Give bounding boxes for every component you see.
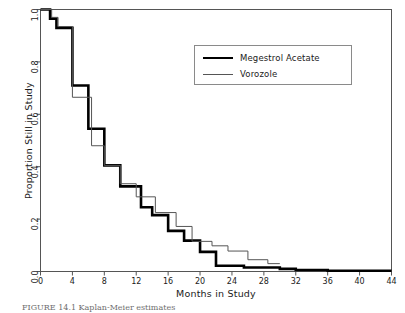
x-tick-label-16: 16 <box>163 277 173 286</box>
x-tick-label-32: 32 <box>291 277 301 286</box>
legend-label-vorozole: Vorozole <box>240 69 277 79</box>
x-tick-label-8: 8 <box>102 277 107 286</box>
kaplan-meier-figure: 048121620242832364044 0.00.20.40.60.81.0… <box>0 0 405 313</box>
legend-entry-vorozole: Vorozole <box>203 67 277 81</box>
figure-caption: FIGURE 14.1 Kaplan-Meier estimates <box>22 303 352 313</box>
y-tick-label-0.0: 0.0 <box>30 270 39 288</box>
legend-swatch-thick-line <box>203 57 233 59</box>
x-tick-label-40: 40 <box>354 277 364 286</box>
x-tick-label-36: 36 <box>323 277 333 286</box>
x-axis-title: Months in Study <box>40 288 392 299</box>
legend: Megestrol Acetate Vorozole <box>194 45 352 85</box>
x-tick-label-12: 12 <box>131 277 141 286</box>
x-tick-label-20: 20 <box>195 277 205 286</box>
legend-entry-megestrol-acetate: Megestrol Acetate <box>203 51 320 65</box>
legend-swatch-thin-line <box>203 74 233 75</box>
x-tick-label-44: 44 <box>386 277 396 286</box>
legend-label-megestrol-acetate: Megestrol Acetate <box>240 53 320 63</box>
y-axis-title: Proportion Still in Study <box>23 21 34 261</box>
x-tick-label-28: 28 <box>259 277 269 286</box>
x-tick-label-24: 24 <box>227 277 237 286</box>
x-tick-label-4: 4 <box>70 277 75 286</box>
